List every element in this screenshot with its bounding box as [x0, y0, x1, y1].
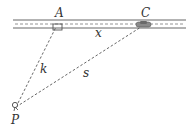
- right-angle-marker: [53, 24, 62, 30]
- label-c: C: [141, 6, 150, 20]
- label-k: k: [40, 62, 47, 76]
- label-s: s: [83, 66, 89, 80]
- label-p: P: [10, 113, 20, 127]
- label-x: x: [95, 26, 102, 40]
- observer-p-icon: [12, 102, 18, 111]
- car-icon: [136, 21, 151, 27]
- segment-pa: [16, 27, 56, 107]
- label-a: A: [54, 6, 64, 20]
- diagram-canvas: A C x k s P: [0, 0, 193, 131]
- segment-pc: [16, 27, 141, 107]
